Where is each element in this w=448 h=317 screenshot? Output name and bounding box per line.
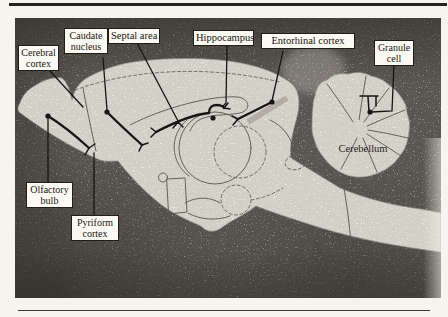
label-granule-cell: Granule cell — [374, 40, 414, 66]
label-line: nucleus — [67, 41, 105, 52]
label-line: Cerebellum — [333, 143, 393, 154]
label-cerebellum: Cerebellum — [331, 142, 395, 155]
label-olfactory-bulb: Olfactory bulb — [26, 182, 73, 208]
label-line: Septal area — [111, 30, 157, 42]
label-caudate-nucleus: Caudate nucleus — [64, 28, 108, 54]
label-hippocampus: Hippocampus — [193, 30, 254, 46]
label-line: Caudate — [67, 30, 105, 41]
label-line: cortex — [21, 58, 56, 69]
label-cerebral-cortex: Cerebral cortex — [18, 45, 59, 71]
label-pyriform-cortex: Pyriform cortex — [71, 215, 119, 241]
scanned-textbook-figure: Cerebral cortex Caudate nucleus Septal a… — [0, 0, 448, 317]
label-line: Granule — [377, 42, 411, 53]
top-rule — [9, 3, 447, 6]
label-entorhinal-cortex: Entorhinal cortex — [261, 33, 355, 49]
label-line: Olfactory — [29, 184, 70, 195]
bottom-rule — [18, 310, 430, 311]
label-line: cell — [377, 53, 411, 64]
label-line: Cerebral — [21, 47, 56, 58]
label-line: Hippocampus — [196, 32, 251, 44]
label-line: cortex — [74, 228, 116, 239]
label-line: bulb — [29, 195, 70, 206]
label-line: Entorhinal cortex — [264, 35, 352, 47]
label-line: Pyriform — [74, 217, 116, 228]
label-septal-area: Septal area — [108, 28, 160, 44]
